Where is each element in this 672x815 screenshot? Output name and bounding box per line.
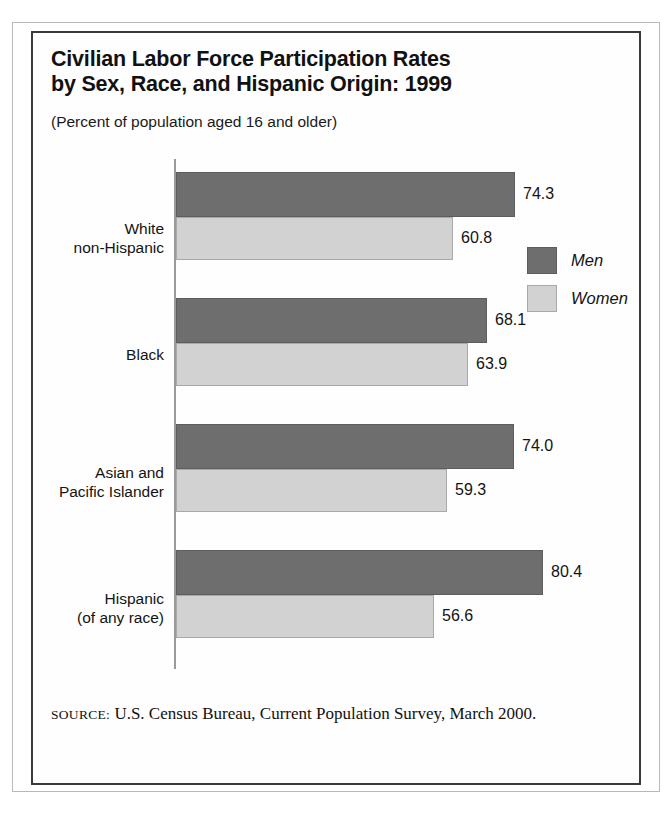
category-label-line-2: non-Hispanic	[33, 238, 164, 257]
bar-value-asian-pacific-islander-women: 59.3	[455, 481, 486, 499]
category-label-white-non-hispanic: White non-Hispanic	[33, 219, 164, 257]
bar-value-asian-pacific-islander-men: 74.0	[522, 437, 553, 455]
bar-hispanic-women	[176, 595, 434, 638]
legend-label-men: Men	[571, 251, 603, 270]
legend-swatch-men-icon	[527, 247, 557, 274]
legend-label-women: Women	[571, 289, 628, 308]
bar-value-white-non-hispanic-men: 74.3	[523, 185, 554, 203]
bar-white-non-hispanic-men	[176, 172, 515, 217]
chart-legend: Men Women	[527, 241, 628, 317]
category-label-hispanic: Hispanic (of any race)	[33, 589, 164, 627]
category-label-black: Black	[33, 345, 164, 364]
category-label-line-1: Asian and	[33, 463, 164, 482]
category-label-line-2: Pacific Islander	[33, 482, 164, 501]
source-note-label: SOURCE:	[51, 707, 110, 722]
chart-plot-area: White non-Hispanic 74.3 60.8 Black 68.1 …	[33, 33, 639, 783]
bar-black-women	[176, 343, 468, 386]
scan-bleed-through-top	[398, 2, 648, 18]
bar-white-non-hispanic-women	[176, 217, 453, 260]
bar-hispanic-men	[176, 550, 543, 595]
source-note-text: U.S. Census Bureau, Current Population S…	[110, 704, 536, 723]
legend-item-men: Men	[527, 241, 628, 279]
bar-value-hispanic-men: 80.4	[551, 563, 582, 581]
bar-asian-pacific-islander-women	[176, 469, 447, 512]
source-note: SOURCE: U.S. Census Bureau, Current Popu…	[51, 701, 611, 727]
bar-value-black-women: 63.9	[476, 355, 507, 373]
category-label-line-1: Hispanic	[33, 589, 164, 608]
bar-black-men	[176, 298, 487, 343]
bar-value-black-men: 68.1	[495, 311, 526, 329]
bar-value-white-non-hispanic-women: 60.8	[461, 229, 492, 247]
figure-container: Civilian Labor Force Participation Rates…	[31, 31, 641, 785]
bar-asian-pacific-islander-men	[176, 424, 514, 469]
category-label-asian-pacific-islander: Asian and Pacific Islander	[33, 463, 164, 501]
category-label-line-2: (of any race)	[33, 608, 164, 627]
category-label-line-1: White	[33, 219, 164, 238]
legend-item-women: Women	[527, 279, 628, 317]
legend-swatch-women-icon	[527, 285, 557, 312]
category-label-line-1: Black	[33, 345, 164, 364]
bar-value-hispanic-women: 56.6	[442, 607, 473, 625]
